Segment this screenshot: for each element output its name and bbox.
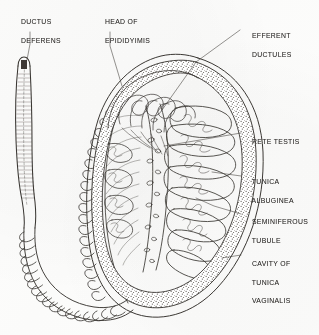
label-line: TUNICA: [252, 278, 280, 287]
label-line: VAGINALIS: [252, 296, 291, 305]
label-line: EFFERENT: [252, 31, 291, 40]
label-line: TUBULE: [252, 236, 281, 245]
leader-rete-testis: [164, 133, 241, 146]
label-line: DEFERENS: [21, 36, 61, 45]
label-line: EPIDIDYIMIS: [105, 36, 150, 45]
label-line: HEAD OF: [105, 17, 138, 26]
label-line: ALBUGINEA: [252, 196, 294, 205]
mediastinum-and-rete-testis: [143, 104, 168, 272]
label-rete-testis: RETE TESTIS: [243, 128, 300, 156]
vas-deferens-tube: [16, 57, 36, 228]
label-line: TUNICA: [252, 177, 280, 186]
label-seminiferous-tubule: SEMINIFEROUS TUBULE: [243, 208, 308, 254]
label-cavity-of-tunica-vaginalis: CAVITY OF TUNICA VAGINALIS: [243, 250, 291, 314]
efferent-ductules: [119, 94, 196, 156]
label-head-of-epididymis: HEAD OF EPIDIDYIMIS: [96, 8, 150, 54]
label-line: DUCTULES: [252, 50, 292, 59]
label-ductus-deferens: DUCTUS DEFERENS: [12, 8, 61, 54]
label-line: RETE TESTIS: [252, 137, 300, 146]
leader-lines: [27, 30, 241, 258]
epididymis-coil: [20, 70, 158, 322]
label-line: DUCTUS: [21, 17, 52, 26]
label-efferent-ductules: EFFERENT DUCTULES: [243, 22, 292, 68]
testis-anatomical-figure: DUCTUS DEFERENS HEAD OF EPIDIDYIMIS EFFE…: [0, 0, 319, 335]
label-line: CAVITY OF: [252, 259, 291, 268]
label-line: SEMINIFEROUS: [252, 217, 308, 226]
